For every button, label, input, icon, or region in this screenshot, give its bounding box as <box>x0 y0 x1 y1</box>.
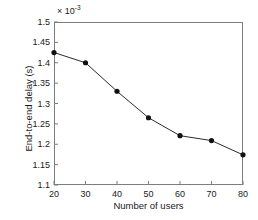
x-tick-label: 80 <box>228 189 258 199</box>
x-tick-label: 20 <box>39 189 69 199</box>
x-axis-tick-labels: 20304050607080 <box>0 0 258 220</box>
x-tick-label: 70 <box>197 189 227 199</box>
x-axis-title: Number of users <box>54 200 243 211</box>
chart-figure: × 10-3 1.11.151.21.251.31.351.41.451.5 2… <box>0 0 258 220</box>
x-tick-label: 30 <box>71 189 101 199</box>
x-tick-label: 60 <box>165 189 195 199</box>
x-tick-label: 50 <box>134 189 164 199</box>
x-tick-label: 40 <box>102 189 132 199</box>
y-axis-title: End-to-end delay (s) <box>23 29 34 189</box>
